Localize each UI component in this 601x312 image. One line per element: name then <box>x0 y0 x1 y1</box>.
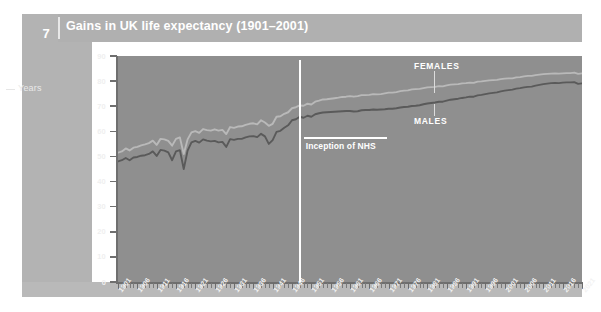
x-tick <box>211 283 212 288</box>
y-tick <box>110 206 117 208</box>
y-tick <box>110 231 117 233</box>
x-tick <box>249 283 250 288</box>
y-tick <box>110 281 117 283</box>
nhs-label-rule <box>304 137 387 139</box>
x-tick <box>265 283 266 288</box>
y-tick <box>110 131 117 133</box>
y-tick <box>110 181 117 183</box>
y-tick <box>110 55 117 57</box>
figure-root: 7 Gains in UK life expectancy (1901–2001… <box>0 0 601 312</box>
y-tick <box>110 80 117 82</box>
x-tick <box>323 283 324 288</box>
x-tick <box>172 283 173 288</box>
x-tick <box>207 283 208 288</box>
y-tick-label: 60 <box>76 127 106 136</box>
x-tick <box>481 283 482 288</box>
y-tick <box>110 156 117 158</box>
x-tick-label: 2021 <box>581 276 596 293</box>
y-tick <box>110 105 117 107</box>
y-tick-label: 0 <box>76 278 106 287</box>
y-tick-label: 70 <box>76 102 106 111</box>
y-tick <box>110 256 117 258</box>
y-tick-label: 90 <box>76 52 106 61</box>
series-label-males: MALES <box>414 116 447 126</box>
x-tick <box>381 283 382 288</box>
x-tick <box>501 283 502 288</box>
x-tick <box>191 283 192 288</box>
y-tick-label: 20 <box>76 227 106 236</box>
y-tick-label: 40 <box>76 177 106 186</box>
y-tick-label: 80 <box>76 77 106 86</box>
x-tick <box>385 283 386 288</box>
x-tick <box>443 283 444 288</box>
x-tick <box>539 283 540 288</box>
nhs-annotation-label: Inception of NHS <box>306 141 376 151</box>
x-tick <box>520 283 521 288</box>
x-tick <box>423 283 424 288</box>
x-tick <box>230 283 231 288</box>
x-tick <box>555 283 556 288</box>
x-tick <box>497 283 498 288</box>
title-divider <box>58 17 60 39</box>
x-tick <box>133 283 134 288</box>
y-tick-label: 30 <box>76 202 106 211</box>
x-tick <box>462 283 463 288</box>
nhs-marker-line <box>299 60 301 282</box>
series-line-males <box>118 82 582 169</box>
x-tick <box>307 283 308 288</box>
x-tick <box>288 283 289 288</box>
x-tick <box>153 283 154 288</box>
x-tick <box>439 283 440 288</box>
page-title: Gains in UK life expectancy (1901–2001) <box>66 19 308 33</box>
series-label-females: FEMALES <box>414 61 460 71</box>
series-leader-males <box>434 104 435 116</box>
series-leader-females <box>434 71 435 93</box>
y-tick-label: 50 <box>76 152 106 161</box>
x-tick <box>327 283 328 288</box>
series-lines <box>118 56 582 282</box>
y-axis-title-tick <box>6 89 15 90</box>
x-tick <box>269 283 270 288</box>
x-tick <box>559 283 560 288</box>
x-tick <box>365 283 366 288</box>
x-tick <box>346 283 347 288</box>
y-tick-label: 10 <box>76 252 106 261</box>
x-tick <box>578 283 579 288</box>
y-axis-title: Years <box>18 83 42 93</box>
x-tick <box>149 283 150 288</box>
x-tick <box>404 283 405 288</box>
